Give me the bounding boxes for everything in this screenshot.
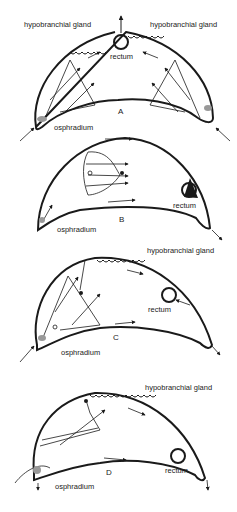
panel-label-b: B (119, 215, 124, 224)
panel-label-c: C (113, 333, 119, 342)
label-rectum: rectum (165, 466, 188, 475)
panel-c: hypobranchial gland rectum osphradium C (20, 246, 220, 362)
label-gland-right: hypobranchial gland (150, 20, 217, 29)
gill (84, 152, 121, 195)
label-osphradium: osphradium (57, 225, 96, 234)
rectum (171, 449, 185, 463)
mantle-outline (36, 258, 212, 350)
label-rectum: rectum (173, 201, 196, 210)
label-gland: hypobranchial gland (147, 246, 214, 255)
panel-label-d: D (106, 468, 112, 477)
panel-d: hypobranchial gland rectum osphradium D (15, 383, 212, 491)
panel-label-a: A (118, 107, 124, 116)
rectum (162, 288, 176, 302)
mantle-cavity-diagram: hypobranchial gland hypobranchial gland … (0, 0, 237, 512)
label-osphradium: osphradium (55, 482, 94, 491)
label-rectum: rectum (110, 52, 133, 61)
hypobranchial-gland (97, 260, 145, 262)
panel-a: hypobranchial gland hypobranchial gland … (20, 16, 230, 141)
panel-b: rectum osphradium B (38, 138, 222, 240)
mantle-outline (35, 32, 213, 129)
hypobranchial-gland-left (70, 52, 106, 54)
label-rectum: rectum (148, 305, 171, 314)
label-osphradium: osphradium (61, 348, 100, 357)
label-gland-left: hypobranchial gland (24, 20, 91, 29)
label-osphradium: osphradium (54, 123, 93, 132)
gill (40, 400, 100, 446)
label-gland: hypobranchial gland (145, 383, 212, 392)
gill (42, 260, 100, 340)
